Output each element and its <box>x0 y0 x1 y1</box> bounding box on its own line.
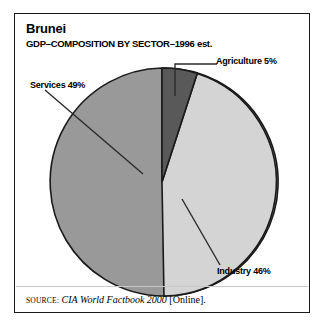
source-divider <box>16 286 308 287</box>
pie-label-services: Services 49% <box>30 80 85 90</box>
pie-label-agriculture: Agriculture 5% <box>216 56 277 66</box>
source-line: SOURCE: CIA World Factbook 2000 [Online]… <box>26 294 206 305</box>
source-label: SOURCE: <box>26 296 59 305</box>
source-title: CIA World Factbook 2000 <box>62 294 167 305</box>
pie-label-industry: Industry 46% <box>217 266 271 276</box>
source-suffix: [Online]. <box>169 294 205 305</box>
figure-frame: Brunei GDP–COMPOSITION BY SECTOR–1996 es… <box>14 13 310 313</box>
